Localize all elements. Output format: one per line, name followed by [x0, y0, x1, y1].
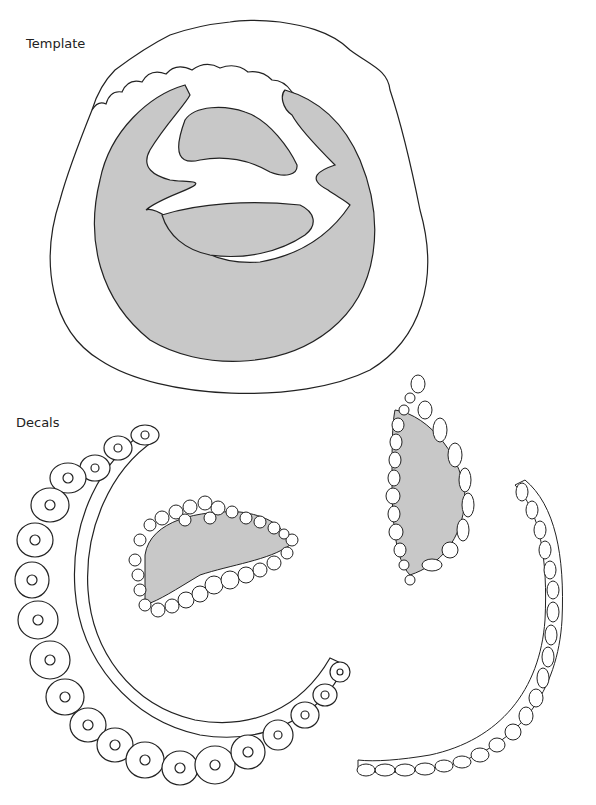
diagram-canvas: [0, 0, 596, 805]
decal-elongated-oval: [386, 375, 474, 585]
decal-small-cavity: [129, 496, 298, 617]
template-upper-lobe: [179, 107, 297, 175]
